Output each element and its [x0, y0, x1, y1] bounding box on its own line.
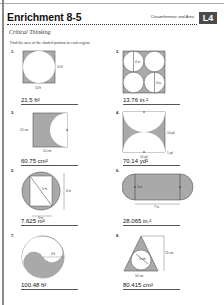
problem-1-label-bottom: 10 ft	[35, 86, 41, 90]
problem-2-label-bottom: 4 in.	[156, 81, 162, 85]
problem-1-answer: 21.5 ft²	[21, 97, 78, 105]
problem-1-label-side: 10 ft	[57, 65, 63, 69]
problem-1-number: 1.	[11, 49, 14, 54]
problem-6-answer: 28.065 in.²	[123, 218, 180, 226]
problem-5-number: 5.	[11, 168, 14, 173]
problem-7-label-radius: 4 ft	[51, 252, 55, 256]
problem-2-number: 2.	[116, 49, 119, 54]
problem-7-answer: 100.48 ft²	[21, 282, 78, 290]
problem-4-answer: 70.14 yd²	[123, 158, 180, 166]
problem-2-label-top: 4 in.	[135, 60, 141, 64]
problem-3-answer: 60.75 cm²	[21, 158, 78, 166]
problem-7-number: 7.	[11, 233, 14, 238]
problem-5-answer: 7.625 m²	[21, 218, 78, 226]
topic-label: Circumference and Area	[151, 14, 194, 19]
problem-5-label-diagonal: 5 m	[42, 187, 48, 191]
problem-3-number: 3.	[11, 110, 14, 115]
problem-5-figure: 5 m 4 m 3 m	[20, 168, 75, 220]
problem-4-figure: 14 yd 10 yd 1 yd	[122, 110, 184, 160]
problem-2-figure: 4 in. 4 in.	[122, 50, 168, 96]
problem-6-number: 6.	[116, 168, 119, 173]
page-left-border	[2, 0, 4, 305]
level-badge: L4	[199, 12, 217, 24]
problem-3-figure: 10 cm 10 cm	[20, 110, 70, 155]
problem-5-label-height: 4 m	[66, 189, 72, 193]
problem-4-number: 4.	[116, 110, 119, 115]
problem-8-label-base: 16 cm	[135, 274, 144, 278]
problem-8-answer: 80.415 cm²	[123, 282, 180, 290]
dotted-rule	[7, 24, 197, 25]
problem-4-label-gap: 1 yd	[167, 151, 173, 155]
problem-6-label-length: 7 in.	[154, 205, 160, 209]
problem-3-label-side: 10 cm	[20, 128, 29, 132]
problem-8-label-diameter: 5 cm	[139, 257, 146, 261]
worksheet-title: Enrichment 8-5	[7, 11, 81, 23]
worksheet-subtitle: Critical Thinking	[9, 29, 51, 35]
problem-2-answer: 13.76 in.²	[123, 97, 180, 105]
problem-3-label-bottom: 10 cm	[43, 149, 52, 153]
page-top-border	[0, 0, 224, 4]
worksheet-header: Enrichment 8-5 Circumference and Area L4	[7, 11, 221, 27]
problem-7-figure: 4 ft	[20, 234, 70, 280]
problem-6-figure: 3 in. 7 in.	[122, 172, 194, 212]
problem-8-label-height: 15 cm	[165, 251, 174, 255]
problem-4-label-height: 14 yd	[167, 131, 175, 135]
problem-6-label-radius: 3 in.	[137, 185, 143, 189]
problem-1-figure: 10 ft 10 ft	[22, 50, 70, 98]
problem-8-figure: 5 cm 15 cm 16 cm	[122, 234, 177, 282]
problem-8-number: 8.	[116, 233, 119, 238]
instructions: Find the area of the shaded portion in e…	[10, 40, 90, 45]
